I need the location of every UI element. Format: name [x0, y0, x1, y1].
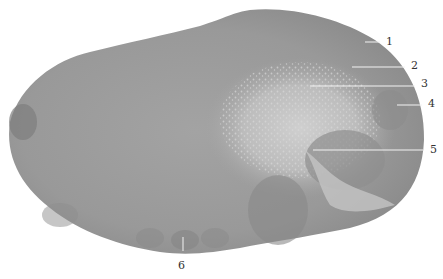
label-5: 5	[430, 144, 437, 155]
tissue-section-image	[0, 0, 443, 279]
label-6: 6	[178, 260, 185, 271]
label-2: 2	[411, 60, 418, 71]
label-4: 4	[428, 98, 435, 109]
label-1: 1	[386, 36, 393, 47]
micrograph-figure: 1 2 3 4 5 6	[0, 0, 443, 279]
label-3: 3	[421, 78, 428, 89]
